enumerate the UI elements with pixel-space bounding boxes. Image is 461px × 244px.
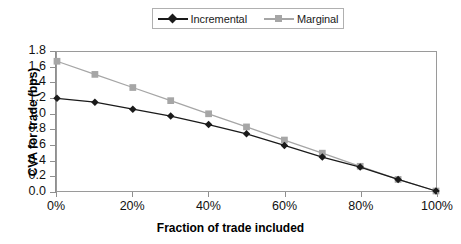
data-point-diamond bbox=[243, 130, 251, 137]
x-axis-tick bbox=[132, 192, 133, 197]
legend-label-marginal: Marginal bbox=[297, 13, 338, 25]
data-point-square bbox=[129, 84, 136, 91]
x-axis-tick bbox=[437, 192, 438, 197]
legend-entry-incremental: Incremental bbox=[158, 13, 247, 25]
data-point-square bbox=[167, 97, 174, 104]
y-axis-title: CVA for trade (bps) bbox=[26, 42, 40, 202]
y-axis-tick bbox=[50, 51, 55, 52]
x-axis-tick bbox=[56, 192, 57, 197]
y-axis-title-wrapper: CVA for trade (bps) bbox=[11, 51, 25, 192]
data-point-square bbox=[205, 110, 212, 117]
chart-series-canvas bbox=[57, 52, 436, 191]
x-axis-tick-label: 40% bbox=[178, 200, 238, 213]
square-icon bbox=[275, 15, 282, 22]
x-axis-tick bbox=[285, 192, 286, 197]
chart-legend: Incremental Marginal bbox=[152, 8, 344, 29]
series-line-incremental bbox=[57, 98, 436, 191]
legend-marker-marginal bbox=[264, 13, 294, 24]
y-axis-tick bbox=[50, 114, 55, 115]
data-point-square bbox=[92, 71, 99, 78]
x-axis-tick-label: 0% bbox=[26, 200, 86, 213]
y-axis-tick bbox=[50, 67, 55, 68]
x-axis-tick bbox=[361, 192, 362, 197]
data-point-square bbox=[243, 124, 250, 131]
data-point-square bbox=[54, 58, 61, 65]
data-point-diamond bbox=[205, 121, 213, 128]
legend-entry-marginal: Marginal bbox=[264, 13, 338, 25]
x-axis-title: Fraction of trade included bbox=[0, 221, 461, 235]
y-axis-tick bbox=[50, 176, 55, 177]
x-axis-tick-label: 100% bbox=[407, 200, 461, 213]
legend-label-incremental: Incremental bbox=[191, 13, 247, 25]
x-axis-tick bbox=[208, 192, 209, 197]
legend-marker-incremental bbox=[158, 13, 188, 24]
data-point-diamond bbox=[129, 105, 137, 112]
x-axis-tick-label: 20% bbox=[102, 200, 162, 213]
y-axis-tick bbox=[50, 82, 55, 83]
data-point-diamond bbox=[91, 98, 99, 105]
x-axis-tick-label: 60% bbox=[255, 200, 315, 213]
data-point-diamond bbox=[167, 112, 175, 119]
x-axis-tick-label: 80% bbox=[331, 200, 391, 213]
y-axis-tick bbox=[50, 129, 55, 130]
plot-area bbox=[56, 51, 437, 192]
y-axis-tick bbox=[50, 145, 55, 146]
y-axis-tick bbox=[50, 192, 55, 193]
chart-figure: Incremental Marginal 1.81.61.41.21.00.80… bbox=[0, 0, 461, 244]
diamond-icon bbox=[167, 14, 177, 24]
y-axis-tick bbox=[50, 161, 55, 162]
